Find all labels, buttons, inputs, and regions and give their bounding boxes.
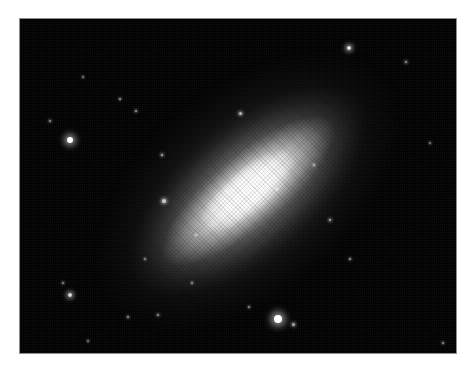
sky-field — [20, 19, 456, 353]
galaxy-inner-disk — [141, 93, 354, 288]
figure-astronomical-photograph — [0, 0, 476, 371]
galaxy-outer-halo — [43, 19, 454, 353]
galaxy-bulge — [187, 135, 308, 247]
galaxy-core — [222, 166, 274, 215]
galaxy-mid-halo — [94, 47, 401, 335]
halftone-dither-overlay — [20, 19, 456, 353]
galaxy-lenticular-edge-on — [20, 19, 456, 353]
